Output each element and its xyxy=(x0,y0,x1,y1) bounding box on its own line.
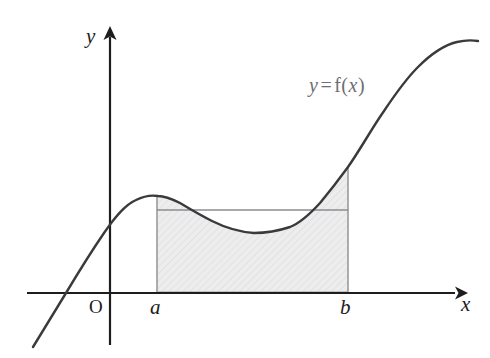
upper-limit-label-b: b xyxy=(340,297,351,318)
curve-equation-equals: = xyxy=(318,74,334,96)
integral-diagram-svg xyxy=(0,0,490,358)
curve-equation-y: y xyxy=(309,74,318,96)
lower-limit-label-a: a xyxy=(150,297,161,318)
y-axis-group xyxy=(104,26,117,345)
shaded-area-group xyxy=(157,167,348,293)
figure-canvas: y x O a b y=f(x) xyxy=(0,0,490,358)
curve-equation-close-paren: ) xyxy=(358,74,365,96)
curve-equation-label: y=f(x) xyxy=(309,75,365,95)
curve-equation-f-open: f( xyxy=(334,74,348,96)
y-axis-label: y xyxy=(86,26,95,47)
shaded-area-under-curve xyxy=(157,167,348,293)
origin-label: O xyxy=(89,297,103,316)
curve-equation-variable: x xyxy=(349,74,358,96)
x-axis-label: x xyxy=(461,294,470,315)
